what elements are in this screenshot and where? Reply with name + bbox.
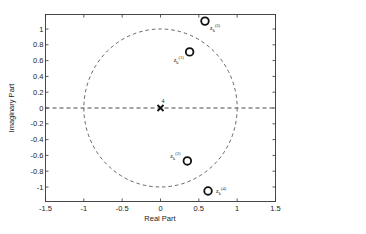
y-tick-label: -0.6	[31, 151, 44, 160]
y-tick-label: 0	[39, 104, 43, 113]
y-tick-label: -0.8	[31, 167, 44, 176]
x-tick-label: -1.5	[39, 204, 52, 213]
pole-multiplicity-label: 4	[162, 98, 165, 104]
x-tick-label: -1	[80, 204, 87, 213]
y-tick-label: 0.2	[33, 88, 43, 97]
y-tick-label: -1	[37, 183, 44, 192]
x-axis-label: Real Part	[144, 214, 176, 223]
y-tick-label: 0.8	[33, 40, 43, 49]
x-tick-label: 1.5	[270, 204, 280, 213]
pole-zero-plot: -1.5-1-0.500.511.5-1-0.8-0.6-0.4-0.200.2…	[0, 0, 366, 234]
y-tick-label: 0.6	[33, 56, 43, 65]
x-tick-label: 1	[235, 204, 239, 213]
y-tick-label: -0.2	[31, 119, 44, 128]
y-tick-label: 0.4	[33, 72, 43, 81]
y-axis-label: Imaginary Part	[7, 83, 16, 133]
y-tick-label: -0.4	[31, 135, 44, 144]
x-tick-label: -0.5	[116, 204, 129, 213]
x-tick-label: 0.5	[194, 204, 204, 213]
x-tick-label: 0	[158, 204, 162, 213]
y-tick-label: 1	[39, 25, 43, 34]
